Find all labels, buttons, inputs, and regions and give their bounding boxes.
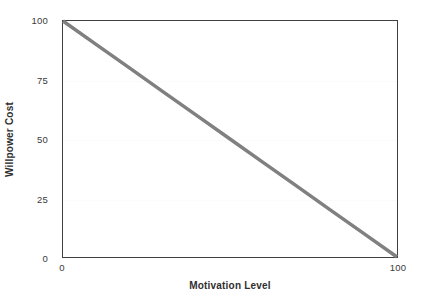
chart-figure: Willpower Cost 0255075100 0100 Motivatio… — [0, 0, 426, 304]
x-tick-label: 0 — [59, 262, 64, 273]
x-tick-label: 100 — [390, 262, 406, 273]
x-axis-title: Motivation Level — [62, 280, 398, 291]
x-axis-tick-labels: 0100 — [0, 0, 426, 304]
